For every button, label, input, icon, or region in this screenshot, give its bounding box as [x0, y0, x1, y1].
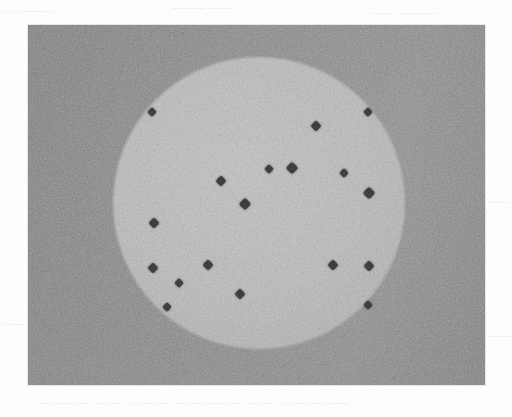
ghost-text-top-right: —— ——— [372, 6, 437, 18]
ghost-text-lower-left: —— [2, 318, 24, 329]
ghost-text-mid-right: —— [488, 196, 510, 207]
ghost-text-bottom: ———— —— ——— ————— —— ————— [38, 396, 350, 408]
ghost-text-top-left: — ——— [2, 4, 55, 16]
scanned-page: — ——— ——— —— —— ——— —— —— —— ———— —— ———… [0, 0, 512, 417]
ghost-text-top-middle: ——— —— [172, 2, 232, 13]
ghost-text-lower-right: —— [489, 330, 511, 341]
bright-circular-disc [113, 57, 405, 349]
figure-image-panel [28, 25, 485, 385]
